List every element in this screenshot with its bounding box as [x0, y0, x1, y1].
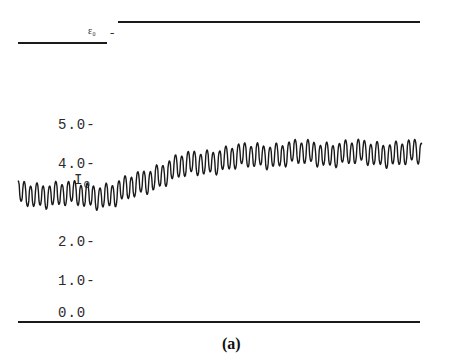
x-axis-line: [18, 321, 420, 323]
intensity-waveform: [0, 0, 471, 359]
figure-caption: (a): [222, 335, 241, 353]
